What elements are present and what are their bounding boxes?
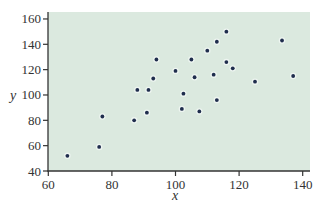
data-point — [205, 49, 209, 53]
data-point — [155, 58, 159, 62]
scatter-chart: 406080100120140160 6080100120140 y x — [0, 0, 324, 210]
data-point — [100, 115, 104, 119]
y-tick-label: 80 — [28, 113, 41, 128]
y-axis-label: y — [8, 88, 17, 103]
data-point — [231, 66, 235, 70]
data-point — [151, 77, 155, 81]
data-point — [135, 88, 139, 92]
y-tick-label: 100 — [22, 87, 42, 102]
data-point — [215, 98, 219, 102]
data-point — [147, 88, 151, 92]
data-point — [182, 92, 186, 96]
data-point — [212, 73, 216, 77]
x-tick-label: 60 — [42, 177, 55, 192]
data-point — [97, 145, 101, 149]
data-point — [224, 60, 228, 64]
x-tick-label: 140 — [293, 177, 313, 192]
data-point — [145, 111, 149, 115]
data-point — [291, 74, 295, 78]
data-point — [253, 80, 257, 84]
y-tick-label: 140 — [22, 37, 42, 52]
data-point — [197, 110, 201, 114]
data-point — [215, 40, 219, 44]
data-point — [280, 39, 284, 43]
x-axis-label: x — [171, 188, 179, 203]
plot-background — [48, 12, 310, 171]
data-point — [180, 107, 184, 111]
data-point — [174, 69, 178, 73]
y-tick-label: 160 — [22, 11, 42, 26]
data-point — [224, 30, 228, 34]
y-tick-label: 60 — [28, 138, 41, 153]
x-tick-label: 120 — [229, 177, 249, 192]
y-tick-label: 40 — [28, 164, 41, 179]
data-point — [190, 58, 194, 62]
x-tick-label: 80 — [105, 177, 118, 192]
y-axis-ticks: 406080100120140160 — [22, 11, 49, 178]
data-point — [132, 118, 136, 122]
data-point — [193, 75, 197, 79]
data-point — [65, 154, 69, 158]
y-tick-label: 120 — [22, 62, 42, 77]
